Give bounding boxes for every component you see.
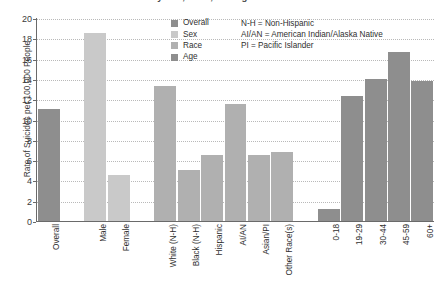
y-axis-tick-mark (33, 181, 36, 182)
suicide-rate-bar-chart: by Sex, Race, and Age in 2017 Rate of Su… (0, 0, 439, 288)
bar (178, 170, 200, 221)
chart-title: by Sex, Race, and Age in 2017 (0, 0, 439, 2)
y-axis-tick-mark (33, 121, 36, 122)
legend: OverallSexRaceAge (171, 18, 209, 63)
bar (38, 109, 60, 221)
legend-swatch-icon (171, 54, 178, 61)
bar (154, 86, 176, 221)
x-axis-line (36, 221, 434, 222)
y-axis-tick-label: 6 (27, 156, 32, 166)
x-axis-tick-label: 30-44 (379, 224, 388, 245)
y-axis-tick-label: 16 (22, 55, 32, 65)
y-axis-tick-mark (33, 60, 36, 61)
y-axis-tick-mark (33, 39, 36, 40)
abbreviation-note: PI = Pacific Islander (241, 40, 383, 51)
x-axis-tick-label: Asian/PI (262, 224, 271, 255)
bar (84, 33, 106, 221)
y-axis-tick-mark (33, 161, 36, 162)
y-axis-tick-label: 8 (27, 136, 32, 146)
y-axis-tick-label: 18 (22, 34, 32, 44)
y-axis-tick-mark (33, 19, 36, 20)
bar (225, 104, 247, 221)
y-axis-tick-mark (33, 100, 36, 101)
x-axis-tick-labels: OverallMaleFemaleWhite (N-H)Black (N-H)H… (37, 224, 434, 288)
abbreviation-note: AI/AN = American Indian/Alaska Native (241, 29, 383, 40)
y-axis-tick-label: 12 (22, 95, 32, 105)
bar (411, 81, 433, 221)
y-axis-tick-mark (33, 202, 36, 203)
y-axis-tick-label: 14 (22, 75, 32, 85)
bar (201, 155, 223, 221)
y-axis-tick-mark (33, 222, 36, 223)
y-axis-tick-label: 2 (27, 197, 32, 207)
bar (271, 152, 293, 221)
legend-swatch-icon (171, 42, 178, 49)
y-axis-tick-label: 20 (22, 14, 32, 24)
bar (365, 79, 387, 221)
x-axis-tick-label: 19-29 (355, 224, 364, 245)
abbreviation-note: N-H = Non-Hispanic (241, 18, 383, 29)
bar (248, 155, 270, 221)
legend-item: Race (171, 40, 209, 51)
bar (341, 96, 363, 221)
bar (388, 52, 410, 222)
x-axis-tick-label: Other Race(s) (285, 224, 294, 275)
legend-item-label: Age (183, 53, 198, 61)
y-axis-title: Rate of Suicides per 100,000 People (22, 19, 32, 199)
x-axis-tick-label: Black (N-H) (192, 224, 201, 266)
x-axis-tick-label: 60+ (426, 224, 435, 238)
x-axis-tick-label: Female (122, 224, 131, 251)
legend-swatch-icon (171, 31, 178, 38)
bar (108, 175, 130, 221)
x-axis-tick-label: Hispanic (215, 224, 224, 255)
legend-item: Sex (171, 29, 209, 40)
x-axis-tick-label: AI/AN (239, 224, 248, 245)
y-axis-tick-mark (33, 141, 36, 142)
x-axis-tick-label: White (N-H) (169, 224, 178, 267)
legend-item: Age (171, 52, 209, 63)
bar (318, 209, 340, 221)
legend-swatch-icon (171, 20, 178, 27)
y-axis-tick-label: 0 (27, 217, 32, 227)
y-axis-tick-label: 10 (22, 116, 32, 126)
legend-item-label: Sex (183, 31, 197, 39)
abbreviation-notes: N-H = Non-HispanicAI/AN = American India… (241, 18, 383, 52)
y-axis-tick-mark (33, 80, 36, 81)
x-axis-tick-label: 45-59 (402, 224, 411, 245)
legend-item-label: Overall (183, 19, 209, 27)
x-axis-tick-label: Male (99, 224, 108, 242)
legend-item: Overall (171, 18, 209, 29)
y-axis-tick-label: 4 (27, 176, 32, 186)
x-axis-tick-label: Overall (52, 224, 61, 250)
x-axis-tick-label: 0-18 (332, 224, 341, 240)
legend-item-label: Race (183, 42, 202, 50)
